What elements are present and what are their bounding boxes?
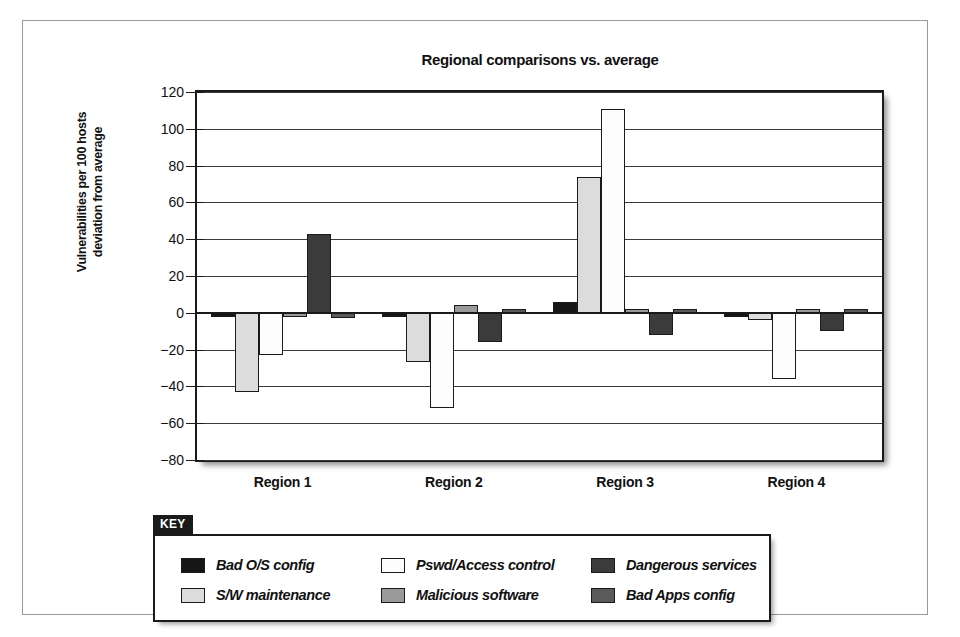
y-axis-title-line2: deviation from average bbox=[91, 127, 105, 257]
y-tick-mark-inner bbox=[197, 460, 204, 461]
figure-frame: Regional comparisons vs. average Vulnera… bbox=[22, 20, 928, 615]
y-tick-mark bbox=[186, 166, 197, 167]
legend-swatch-icon bbox=[591, 588, 615, 603]
bar bbox=[307, 234, 331, 313]
plot-inner: 120100806040200−20−40−60−80 Region 1Regi… bbox=[197, 92, 882, 460]
legend-swatch-icon bbox=[381, 588, 405, 603]
bar bbox=[820, 313, 844, 331]
gridline bbox=[197, 460, 882, 461]
y-axis-title: Vulnerabilities per 100 hosts deviation … bbox=[74, 92, 106, 292]
legend-label: Malicious software bbox=[416, 587, 539, 603]
x-tick-label: Region 2 bbox=[382, 474, 526, 490]
legend-box: Bad O/S configPswd/Access controlDangero… bbox=[153, 534, 771, 622]
y-tick-mark bbox=[186, 276, 197, 277]
bar bbox=[577, 177, 601, 313]
bar bbox=[796, 309, 820, 313]
x-tick-label: Region 4 bbox=[724, 474, 868, 490]
plot-area: 120100806040200−20−40−60−80 Region 1Regi… bbox=[195, 90, 884, 462]
legend-key-tab: KEY bbox=[153, 515, 193, 534]
y-tick-mark bbox=[186, 313, 197, 314]
y-tick-mark-inner bbox=[197, 92, 204, 93]
y-tick-mark bbox=[186, 386, 197, 387]
y-tick-mark bbox=[186, 423, 197, 424]
y-tick-mark-inner bbox=[197, 239, 204, 240]
legend-swatch-icon bbox=[181, 588, 205, 603]
y-tick-label: 20 bbox=[168, 268, 184, 284]
legend-item: Pswd/Access control bbox=[381, 557, 591, 573]
chart-title: Regional comparisons vs. average bbox=[195, 51, 885, 68]
bar bbox=[724, 313, 748, 317]
bar bbox=[502, 309, 526, 313]
legend-label: Pswd/Access control bbox=[416, 557, 554, 573]
y-tick-mark bbox=[186, 350, 197, 351]
legend-label: Dangerous services bbox=[626, 557, 757, 573]
y-tick-mark bbox=[186, 129, 197, 130]
bar bbox=[478, 313, 502, 342]
legend-label: S/W maintenance bbox=[216, 587, 330, 603]
bar bbox=[454, 305, 478, 312]
y-tick-mark bbox=[186, 202, 197, 203]
legend-grid: Bad O/S configPswd/Access controlDangero… bbox=[181, 550, 761, 610]
bar bbox=[406, 313, 430, 363]
legend-item: Dangerous services bbox=[591, 557, 791, 573]
y-tick-mark-inner bbox=[197, 350, 204, 351]
y-tick-label: −80 bbox=[160, 452, 184, 468]
bar bbox=[430, 313, 454, 409]
bar-group: Region 3 bbox=[553, 92, 697, 460]
y-tick-label: 60 bbox=[168, 194, 184, 210]
bar bbox=[331, 313, 355, 319]
y-tick-label: 40 bbox=[168, 231, 184, 247]
legend-item: Bad O/S config bbox=[181, 557, 381, 573]
bar bbox=[235, 313, 259, 392]
bar bbox=[748, 313, 772, 320]
y-tick-mark-inner bbox=[197, 202, 204, 203]
legend-swatch-icon bbox=[591, 558, 615, 573]
y-tick-mark bbox=[186, 239, 197, 240]
y-tick-mark-inner bbox=[197, 276, 204, 277]
bar bbox=[382, 313, 406, 317]
y-tick-label: 0 bbox=[176, 305, 184, 321]
bar bbox=[601, 109, 625, 313]
bar-group: Region 2 bbox=[382, 92, 526, 460]
y-tick-label: 120 bbox=[161, 84, 184, 100]
bar-group: Region 1 bbox=[211, 92, 355, 460]
bar bbox=[844, 309, 868, 313]
bar bbox=[553, 302, 577, 313]
bar bbox=[259, 313, 283, 355]
bar-group: Region 4 bbox=[724, 92, 868, 460]
bar bbox=[673, 309, 697, 313]
legend-item: S/W maintenance bbox=[181, 587, 381, 603]
y-tick-mark bbox=[186, 92, 197, 93]
x-tick-label: Region 3 bbox=[553, 474, 697, 490]
y-tick-label: −20 bbox=[160, 342, 184, 358]
y-tick-mark bbox=[186, 460, 197, 461]
y-tick-label: 100 bbox=[161, 121, 184, 137]
y-tick-label: −60 bbox=[160, 415, 184, 431]
legend-label: Bad O/S config bbox=[216, 557, 314, 573]
y-tick-mark-inner bbox=[197, 313, 204, 314]
bar bbox=[283, 313, 307, 317]
y-tick-mark-inner bbox=[197, 386, 204, 387]
y-axis-title-line1: Vulnerabilities per 100 hosts bbox=[75, 112, 89, 272]
x-tick-label: Region 1 bbox=[211, 474, 355, 490]
legend-swatch-icon bbox=[381, 558, 405, 573]
bar bbox=[211, 313, 235, 317]
y-tick-mark-inner bbox=[197, 423, 204, 424]
y-tick-mark-inner bbox=[197, 129, 204, 130]
y-tick-label: 80 bbox=[168, 158, 184, 174]
legend-label: Bad Apps config bbox=[626, 587, 735, 603]
legend-item: Malicious software bbox=[381, 587, 591, 603]
bar bbox=[625, 309, 649, 313]
bar bbox=[772, 313, 796, 379]
y-tick-label: −40 bbox=[160, 378, 184, 394]
legend-swatch-icon bbox=[181, 558, 205, 573]
bar bbox=[649, 313, 673, 335]
y-tick-mark-inner bbox=[197, 166, 204, 167]
legend-item: Bad Apps config bbox=[591, 587, 791, 603]
